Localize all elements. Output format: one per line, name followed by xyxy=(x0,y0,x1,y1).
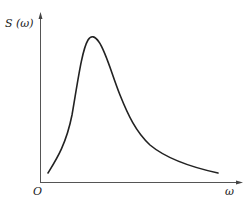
spectral-density-diagram: S (ω) O ω xyxy=(0,0,252,205)
y-axis-label: S (ω) xyxy=(5,17,34,30)
x-axis-arrow-icon xyxy=(236,181,243,185)
origin-label: O xyxy=(33,185,42,198)
x-axis-label: ω xyxy=(225,185,234,198)
diagram-canvas xyxy=(0,0,252,205)
spectral-density-curve xyxy=(48,37,218,173)
y-axis-arrow-icon xyxy=(39,12,43,19)
